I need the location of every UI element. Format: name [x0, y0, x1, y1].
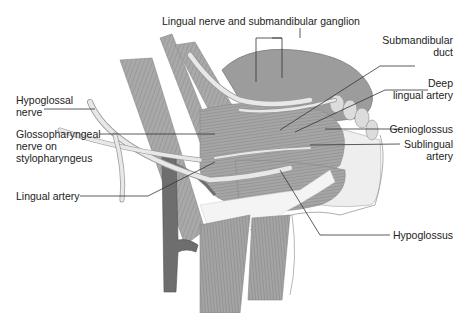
label-line: Deep	[393, 77, 453, 89]
label-line: stylopharyngeus	[16, 152, 101, 164]
label-line: duct	[382, 46, 453, 58]
label-line: lingual artery	[393, 89, 453, 101]
label-line: Sublingual	[404, 138, 453, 150]
label-line: nerve on	[16, 140, 101, 152]
label-deep-lingual-artery: Deep lingual artery	[393, 77, 453, 101]
label-sublingual-artery: Sublingual artery	[404, 138, 453, 162]
label-hypoglossus: Hypoglossus	[393, 229, 453, 241]
infrahyoid-outline	[290, 215, 295, 295]
label-hypoglossal-nerve: Hypoglossal nerve	[16, 94, 73, 118]
label-submandibular-duct: Submandibular duct	[382, 34, 453, 58]
infrahyoid-muscle-2	[248, 215, 290, 300]
label-line: Glossopharyngeal	[16, 128, 101, 140]
label-line: Submandibular	[382, 34, 453, 46]
label-line: Hypoglossal	[16, 94, 73, 106]
label-lingual-nerve: Lingual nerve and submandibular ganglion	[162, 15, 360, 27]
label-lingual-artery: Lingual artery	[16, 190, 80, 202]
label-genioglossus: Genioglossus	[389, 123, 453, 135]
label-line: artery	[404, 150, 453, 162]
infrahyoid-muscle-1	[200, 215, 250, 313]
label-line: nerve	[16, 106, 73, 118]
label-glossopharyngeal-nerve: Glossopharyngeal nerve on stylopharyngeu…	[16, 128, 101, 164]
